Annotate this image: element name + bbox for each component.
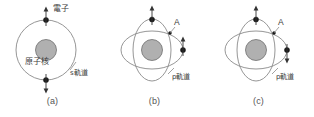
label-point-a: A xyxy=(278,17,284,27)
label-point-a: A xyxy=(174,17,180,27)
spin-arrow-down-right xyxy=(285,44,290,64)
leader-line-point-a xyxy=(274,27,279,33)
panel-b: A p軌道 (b) xyxy=(102,0,207,117)
caption-a: (a) xyxy=(0,96,105,106)
spin-arrow-down-bottom xyxy=(44,74,49,94)
panel-c-diagram: A p軌道 xyxy=(206,0,311,98)
spin-arrow-up-top xyxy=(150,6,155,26)
label-p-orbital: p軌道 xyxy=(276,72,294,81)
caption-c: (c) xyxy=(206,96,311,106)
panel-a: 電子 原子核 s軌道 (a) xyxy=(0,0,105,117)
spin-arrow-up-top xyxy=(254,6,259,26)
panel-c: A p軌道 (c) xyxy=(206,0,311,117)
spin-arrow-up-right xyxy=(181,37,186,57)
figure-root: 電子 原子核 s軌道 (a) xyxy=(0,0,314,117)
label-electron: 電子 xyxy=(53,4,69,13)
caption-b: (b) xyxy=(102,96,207,106)
label-s-orbital: s軌道 xyxy=(70,68,88,77)
leader-line-point-a xyxy=(170,27,175,33)
spin-arrow-up-top xyxy=(44,7,49,27)
nucleus-circle xyxy=(142,40,163,61)
nucleus-circle xyxy=(246,40,267,61)
panel-a-diagram: 電子 原子核 s軌道 xyxy=(0,0,105,98)
label-nucleus: 原子核 xyxy=(25,56,49,66)
panel-b-diagram: A p軌道 xyxy=(102,0,207,98)
label-p-orbital: p軌道 xyxy=(172,72,190,81)
